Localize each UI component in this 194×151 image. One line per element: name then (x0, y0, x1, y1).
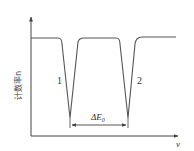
curve-label-2: 2 (137, 75, 142, 86)
y-axis-label: 计数率n (13, 71, 23, 100)
count-rate-curve (31, 37, 176, 118)
interval-label-sub: 0 (102, 117, 105, 123)
curve-label-1: 1 (57, 75, 62, 86)
diagram: 1 2 ΔE0 v 计数率n (0, 0, 194, 151)
interval-label-main: ΔE (90, 112, 102, 122)
x-axis-label: v (176, 139, 180, 149)
interval-label: ΔE0 (90, 112, 105, 123)
